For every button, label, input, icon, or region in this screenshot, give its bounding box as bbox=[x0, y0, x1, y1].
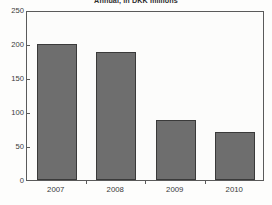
bar-2008 bbox=[96, 52, 136, 180]
x-tick-label-2007: 2007 bbox=[36, 184, 76, 196]
y-tick-label: 50 bbox=[16, 142, 24, 152]
bar-2009 bbox=[156, 120, 196, 180]
bar-chart-figure: Annual, in DKK millions 050100150200250 … bbox=[0, 0, 272, 205]
x-axis: 2007200820092010 bbox=[26, 184, 264, 198]
x-tick-label-2008: 2008 bbox=[95, 184, 135, 196]
y-tick-label: 250 bbox=[11, 6, 24, 16]
bars-layer bbox=[27, 12, 263, 180]
x-tick-mark bbox=[145, 181, 146, 184]
x-tick-mark bbox=[86, 181, 87, 184]
y-tick-label: 200 bbox=[11, 40, 24, 50]
x-tick-mark bbox=[205, 181, 206, 184]
bar-2010 bbox=[215, 132, 255, 180]
chart-subtitle: Annual, in DKK millions bbox=[0, 0, 272, 5]
bar-2007 bbox=[37, 44, 77, 180]
x-tick-label-2009: 2009 bbox=[155, 184, 195, 196]
y-tick-label: 150 bbox=[11, 74, 24, 84]
plot-area bbox=[26, 11, 264, 181]
y-tick-label: 0 bbox=[20, 176, 24, 186]
y-tick-label: 100 bbox=[11, 108, 24, 118]
x-tick-label-2010: 2010 bbox=[214, 184, 254, 196]
